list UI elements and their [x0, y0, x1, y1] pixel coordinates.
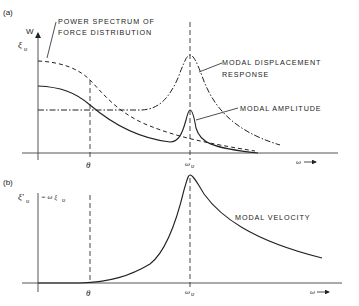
panel-b: (b) ξ' υ = ω ξ υ MODAL VELOCITY θ ω υ ω — [3, 175, 342, 298]
panel-a-theta-label: θ — [86, 160, 91, 170]
panel-a-y-label-sub: υ — [24, 45, 27, 53]
displacement-leader — [199, 63, 222, 72]
amplitude-label: MODAL AMPLITUDE — [240, 104, 322, 113]
panel-b-omega-label: ω — [185, 288, 190, 296]
panel-a-tag: (a) — [3, 8, 13, 17]
panel-b-theta-label: θ — [86, 288, 91, 298]
amplitude-leader — [196, 108, 238, 120]
panel-a-omega-label: ω — [185, 160, 190, 168]
power-spectrum-label-1: POWER SPECTRUM OF — [58, 17, 155, 26]
panel-b-y-label-eq: = ω ξ — [41, 193, 57, 201]
power-spectrum-leader — [47, 22, 56, 58]
power-spectrum-label-2: FORCE DISTRIBUTION — [58, 28, 152, 37]
modal-amplitude-curve — [38, 86, 258, 153]
displacement-label-1: MODAL DISPLACEMENT — [222, 58, 321, 67]
panel-b-y-label-eq-sub: υ — [62, 196, 65, 204]
panel-b-y-label-xi: ξ' — [18, 192, 25, 202]
panel-a-y-label-xi: ξ — [18, 40, 22, 50]
panel-b-y-label-sub: υ — [26, 197, 29, 205]
displacement-label-2: RESPONSE — [222, 70, 269, 79]
modal-response-diagram: (a) W ξ υ POWER SPECTRUM OF FORCE DISTRI… — [0, 0, 359, 306]
panel-a-omega-sub: υ — [191, 162, 194, 170]
panel-a: (a) W ξ υ POWER SPECTRUM OF FORCE DISTRI… — [3, 8, 338, 170]
panel-b-x-label: ω — [310, 288, 315, 296]
panel-b-tag: (b) — [3, 178, 13, 187]
velocity-label: MODAL VELOCITY — [235, 213, 310, 222]
panel-b-omega-sub: υ — [191, 290, 194, 298]
modal-velocity-curve — [38, 175, 322, 283]
panel-a-y-label-w: W — [26, 27, 34, 36]
panel-a-x-label: ω — [296, 158, 301, 166]
modal-displacement-curve — [38, 55, 280, 145]
